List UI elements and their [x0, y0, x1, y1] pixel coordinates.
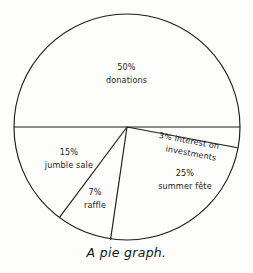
- figure-caption: A pie graph.: [0, 245, 253, 260]
- slice-divider-summer-fete: [111, 127, 128, 240]
- pie-chart-graphic: [0, 0, 253, 273]
- pie-chart-figure: 50% donations 15% jumble sale 7% raffle …: [0, 0, 253, 273]
- slice-divider-raffle: [59, 127, 127, 218]
- slice-divider-interest-investments: [127, 127, 238, 148]
